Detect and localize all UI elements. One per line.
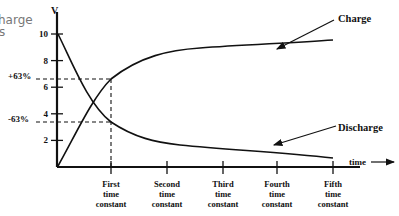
x-category-label: Fifthtimeconstant bbox=[318, 179, 349, 209]
y-ticks: 246810 bbox=[39, 29, 63, 145]
fragment-text-line2: s bbox=[0, 25, 5, 39]
x-category-label: Firsttimeconstant bbox=[96, 179, 127, 209]
y-tick-label: 10 bbox=[39, 29, 49, 39]
charge-annotation: Charge bbox=[338, 13, 372, 24]
x-category-labels: FirsttimeconstantSecondtimeconstantThird… bbox=[96, 179, 349, 209]
x-category-label: Fourthtimeconstant bbox=[262, 179, 293, 209]
y-tick-label: 6 bbox=[44, 82, 49, 92]
x-category-label: Thirdtimeconstant bbox=[208, 179, 239, 209]
y-tick-label: 2 bbox=[44, 135, 49, 145]
y-axis-label: V bbox=[51, 5, 59, 16]
minus63-label: -63% bbox=[8, 114, 29, 124]
y-tick-label: 4 bbox=[44, 109, 49, 119]
x-axis-label: time bbox=[349, 157, 366, 167]
discharge-arrow bbox=[274, 126, 336, 145]
plus63-label: +63% bbox=[8, 71, 31, 81]
charge-arrow bbox=[277, 20, 334, 49]
discharge-annotation: Discharge bbox=[338, 122, 383, 133]
y-tick-label: 8 bbox=[44, 56, 49, 66]
rc-charge-discharge-chart: harge s V 246810 +63% -63% Charge Discha… bbox=[0, 0, 399, 216]
x-category-label: Secondtimeconstant bbox=[152, 179, 183, 209]
